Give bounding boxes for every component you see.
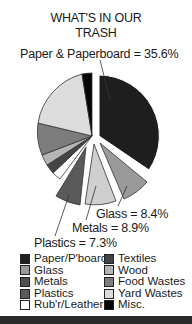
legend-label: Paper/P'board: [34, 253, 107, 265]
legend-item: Misc.: [104, 299, 188, 311]
legend-item: Textiles: [104, 253, 188, 265]
legend-label: Textiles: [118, 253, 156, 265]
legend-swatch: [104, 289, 114, 299]
label-metals: Metals = 8.9%: [72, 221, 149, 235]
legend-swatch: [20, 254, 30, 264]
legend-swatch: [20, 277, 30, 287]
legend-item: Paper/P'board: [20, 253, 104, 265]
label-glass: Glass = 8.4%: [96, 207, 168, 221]
legend-swatch: [104, 265, 114, 275]
legend-swatch: [104, 254, 114, 264]
leader-plastics: [55, 195, 69, 236]
legend-label: Misc.: [118, 299, 145, 311]
bottom-border-bar: [0, 316, 192, 324]
legend-item: Rub'r/Leather: [20, 299, 104, 311]
label-plastics: Plastics = 7.3%: [34, 236, 117, 250]
legend-label: Rub'r/Leather: [34, 299, 103, 311]
legend-swatch: [104, 300, 114, 310]
legend-swatch: [20, 300, 30, 310]
legend-swatch: [20, 265, 30, 275]
legend-item: Yard Wastes: [104, 288, 188, 300]
legend: Paper/P'board Textiles Glass Wood Metals…: [20, 253, 190, 311]
legend-swatch: [104, 277, 114, 287]
legend-swatch: [20, 289, 30, 299]
